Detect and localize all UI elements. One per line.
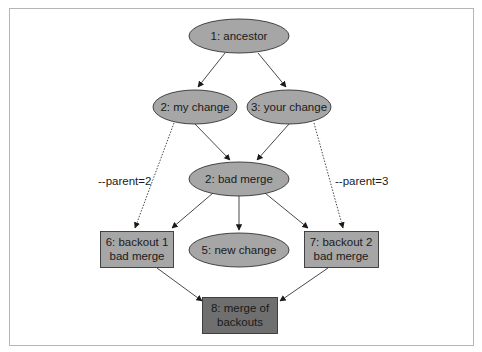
node-5-new-change: 5: new change [189,233,289,267]
node-7-backout-2: 7: backout 2 bad merge [305,232,379,268]
edge-label-parent-2: --parent=2 [98,175,151,187]
merge-diagram: --parent=2 --parent=3 1: ancestor 2: my … [0,0,482,352]
node-label: 2: bad merge [205,173,273,185]
node-2-my-change: 2: my change [153,90,237,124]
node-label: 1: ancestor [211,30,268,42]
node-label: 2: my change [160,101,229,113]
node-label-line1: 8: merge of [211,302,270,314]
node-1-ancestor: 1: ancestor [189,19,289,53]
node-label: 5: new change [202,244,277,256]
node-label-line2: backouts [217,316,263,328]
node-3-your-change: 3: your change [247,90,331,124]
node-6-backout-1: 6: backout 1 bad merge [101,232,174,268]
node-label-line1: 7: backout 2 [310,236,373,248]
node-label-line1: 6: backout 1 [106,236,169,248]
node-label: 3: your change [251,101,327,113]
node-label-line2: bad merge [314,250,369,262]
edge-label-parent-3: --parent=3 [335,175,388,187]
node-8-merge-of-backouts: 8: merge of backouts [203,298,278,334]
node-bad-merge: 2: bad merge [189,162,289,196]
node-label-line2: bad merge [110,250,165,262]
